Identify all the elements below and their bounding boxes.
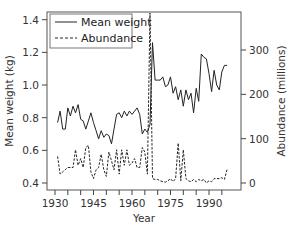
- y-left-tick-label: 1.0: [22, 79, 39, 91]
- x-tick-label: 1945: [80, 197, 107, 209]
- chart: 19301945196019751990 0.40.60.81.01.21.4 …: [0, 0, 293, 232]
- y-left-axis-title: Mean weight (kg): [3, 55, 15, 147]
- y-right-axis-title: Abundance (millions): [275, 45, 287, 156]
- x-tick-label: 1930: [42, 197, 69, 209]
- legend-mean-weight-label: Mean weight: [81, 16, 152, 29]
- y-left-tick-label: 1.2: [22, 46, 39, 58]
- x-axis-title: Year: [132, 212, 156, 224]
- y-right-axis-ticks: 0100200300: [241, 44, 269, 189]
- mean-weight-series-line: [58, 43, 227, 144]
- y-left-tick-label: 0.8: [22, 112, 39, 124]
- y-right-tick-label: 0: [249, 177, 256, 189]
- legend: Mean weight Abundance: [50, 14, 152, 48]
- y-right-tick-label: 200: [249, 88, 269, 100]
- x-axis-ticks: 19301945196019751990: [42, 190, 223, 209]
- y-left-axis-ticks: 0.40.60.81.01.21.4: [22, 14, 47, 189]
- y-right-tick-label: 100: [249, 133, 269, 145]
- y-right-tick-label: 300: [249, 44, 269, 56]
- y-left-tick-label: 1.4: [22, 14, 39, 26]
- x-tick-label: 1990: [196, 197, 223, 209]
- x-tick-label: 1960: [119, 197, 146, 209]
- y-left-tick-label: 0.6: [22, 144, 39, 156]
- x-tick-label: 1975: [157, 197, 184, 209]
- y-left-tick-label: 0.4: [22, 177, 39, 189]
- legend-abundance-label: Abundance: [81, 32, 143, 45]
